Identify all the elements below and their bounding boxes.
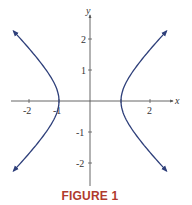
- y-axis-label: y: [85, 5, 91, 16]
- x-axis-label: x: [174, 95, 180, 106]
- y-tick-label: 2: [81, 34, 86, 45]
- y-tick-label: -2: [76, 158, 84, 169]
- y-tick-label: -1: [76, 127, 84, 138]
- y-tick-label: 1: [81, 65, 86, 76]
- x-tick-label: 2: [147, 105, 152, 116]
- figure-caption: FIGURE 1: [0, 189, 180, 203]
- hyperbola-plot: x y -2 -1 2 2 1 -1 -2: [0, 0, 192, 205]
- x-tick-label: -2: [23, 105, 31, 116]
